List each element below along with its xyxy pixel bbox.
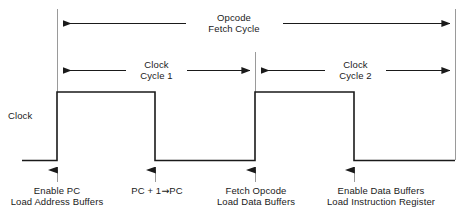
- pc-increment-source: PC + 1: [131, 185, 161, 196]
- event-label-fetch-opcode: Fetch Opcode Load Data Buffers: [217, 185, 295, 207]
- event-label-enable-pc-line1: Enable PC: [11, 185, 104, 196]
- span-label-clock-cycle-1-line2: Cycle 1: [126, 70, 187, 81]
- span-label-clock-cycle-1: Clock Cycle 1: [126, 59, 187, 81]
- span-label-opcode-fetch-cycle: Opcode Fetch Cycle: [186, 12, 282, 34]
- span-label-clock-cycle-2-line2: Cycle 2: [325, 70, 386, 81]
- timing-diagram: Opcode Fetch Cycle Clock Cycle 1 Clock C…: [0, 0, 465, 221]
- span-label-clock-cycle-2-line1: Clock: [325, 59, 386, 70]
- signal-label-clock: Clock: [8, 110, 32, 121]
- event-label-enable-pc: Enable PC Load Address Buffers: [11, 185, 104, 207]
- event-label-enable-pc-line2: Load Address Buffers: [11, 196, 104, 207]
- span-label-clock-cycle-2: Clock Cycle 2: [325, 59, 386, 81]
- event-label-enable-data-buffers: Enable Data Buffers Load Instruction Reg…: [327, 185, 435, 207]
- right-arrow-icon: →: [161, 185, 169, 196]
- event-label-enable-data-buffers-line1: Enable Data Buffers: [327, 185, 435, 196]
- event-label-pc-increment-line1: PC + 1→PC: [131, 185, 182, 196]
- span-label-clock-cycle-1-line1: Clock: [126, 59, 187, 70]
- event-label-fetch-opcode-line2: Load Data Buffers: [217, 196, 295, 207]
- event-callout-arrows: [58, 170, 355, 182]
- span-label-opcode-fetch-cycle-line1: Opcode: [186, 12, 282, 23]
- event-label-enable-data-buffers-line2: Load Instruction Register: [327, 196, 435, 207]
- pc-increment-target: PC: [169, 185, 182, 196]
- span-label-opcode-fetch-cycle-line2: Fetch Cycle: [186, 23, 282, 34]
- clock-waveform: [22, 92, 455, 161]
- event-label-fetch-opcode-line1: Fetch Opcode: [217, 185, 295, 196]
- event-label-pc-increment: PC + 1→PC: [131, 185, 182, 196]
